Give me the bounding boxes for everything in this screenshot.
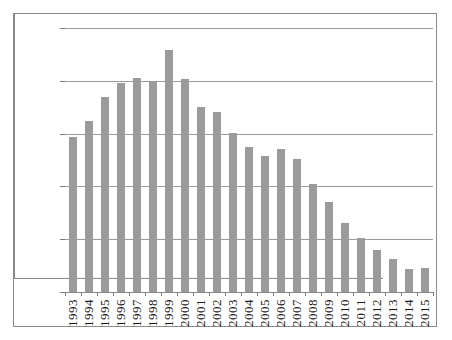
x-tick-mark — [81, 292, 82, 296]
bar-1998 — [149, 81, 157, 292]
x-tick-label-1993: 1993 — [66, 299, 79, 327]
x-tick-mark — [401, 292, 402, 296]
bar-2003 — [229, 133, 237, 292]
bar-2009 — [325, 202, 333, 292]
x-tick-label-2015: 2015 — [418, 299, 431, 327]
x-tick-label-1999: 1999 — [162, 299, 175, 327]
x-tick-label-2001: 2001 — [194, 299, 207, 327]
x-tick-label-2012: 2012 — [370, 299, 383, 327]
bar-2000 — [181, 79, 189, 292]
x-tick-mark — [385, 292, 386, 296]
gridline-70000 — [65, 81, 433, 82]
x-tick-label-2010: 2010 — [338, 299, 351, 327]
x-tick-label-2004: 2004 — [242, 299, 255, 327]
x-tick-mark — [321, 292, 322, 296]
y-axis-line — [14, 13, 15, 279]
bar-1996 — [117, 83, 125, 292]
chart-frame: 75,00070,00065,00060,00055,00050,000 199… — [13, 13, 437, 327]
x-tick-mark — [353, 292, 354, 296]
bar-2007 — [293, 159, 301, 292]
x-tick-label-1995: 1995 — [98, 299, 111, 327]
x-tick-label-2008: 2008 — [306, 299, 319, 327]
bar-1999 — [165, 50, 173, 292]
bar-2004 — [245, 147, 253, 292]
x-tick-mark — [193, 292, 194, 296]
x-tick-label-2014: 2014 — [402, 299, 415, 327]
x-tick-label-2009: 2009 — [322, 299, 335, 327]
x-tick-mark — [97, 292, 98, 296]
x-tick-mark — [417, 292, 418, 296]
bar-2006 — [277, 149, 285, 292]
x-tick-mark — [305, 292, 306, 296]
x-tick-label-2000: 2000 — [178, 299, 191, 327]
x-tick-label-1998: 1998 — [146, 299, 159, 327]
bar-2005 — [261, 156, 269, 292]
x-tick-label-2011: 2011 — [354, 299, 367, 327]
x-tick-label-2002: 2002 — [210, 299, 223, 327]
x-tick-mark — [129, 292, 130, 296]
bar-2008 — [309, 184, 317, 292]
x-tick-mark — [257, 292, 258, 296]
bar-1994 — [85, 121, 93, 292]
bar-2011 — [357, 238, 365, 292]
x-tick-label-2007: 2007 — [290, 299, 303, 327]
bar-2014 — [405, 269, 413, 292]
bar-2010 — [341, 223, 349, 292]
x-tick-mark — [113, 292, 114, 296]
x-tick-label-2005: 2005 — [258, 299, 271, 327]
x-tick-mark — [225, 292, 226, 296]
x-tick-label-1996: 1996 — [114, 299, 127, 327]
x-tick-label-2003: 2003 — [226, 299, 239, 327]
x-tick-mark — [145, 292, 146, 296]
bar-2002 — [213, 112, 221, 292]
x-tick-mark — [369, 292, 370, 296]
x-tick-mark — [209, 292, 210, 296]
x-tick-mark — [337, 292, 338, 296]
bar-1997 — [133, 78, 141, 292]
bar-2013 — [389, 259, 397, 292]
bar-1995 — [101, 97, 109, 292]
x-tick-mark — [433, 292, 434, 296]
bar-1993 — [69, 137, 77, 292]
x-tick-label-2013: 2013 — [386, 299, 399, 327]
x-tick-mark — [241, 292, 242, 296]
x-tick-mark — [289, 292, 290, 296]
gridline-75000 — [65, 28, 433, 29]
x-tick-mark — [177, 292, 178, 296]
x-tick-mark — [161, 292, 162, 296]
gridline-50000 — [65, 292, 433, 293]
bar-2012 — [373, 250, 381, 292]
bar-2015 — [421, 268, 429, 292]
y-axis-labels: 75,00070,00065,00060,00055,00050,000 — [14, 14, 70, 340]
x-tick-mark — [65, 292, 66, 296]
x-tick-label-1997: 1997 — [130, 299, 143, 327]
x-tick-label-2006: 2006 — [274, 299, 287, 327]
x-tick-label-1994: 1994 — [82, 299, 95, 327]
x-tick-mark — [273, 292, 274, 296]
bar-2001 — [197, 107, 205, 292]
